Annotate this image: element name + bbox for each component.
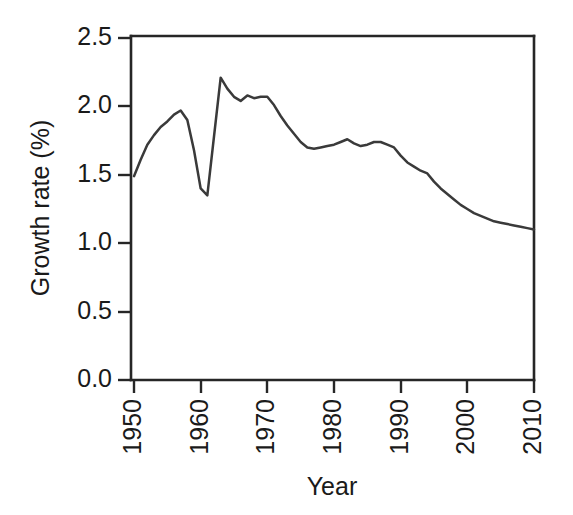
y-axis-tick-labels: 2.5 2.0 1.5 1.0 0.5 0.0 [77, 22, 112, 392]
chart-figure: 2.5 2.0 1.5 1.0 0.5 0.0 1950 1960 1970 1… [0, 0, 573, 515]
y-axis-title: Growth rate (%) [26, 120, 54, 296]
x-tick-label-1960: 1960 [185, 399, 213, 455]
x-axis-tick-labels: 1950 1960 1970 1980 1990 2000 2010 [118, 399, 546, 455]
x-tick-label-1980: 1980 [318, 399, 346, 455]
y-tick-label-0_5: 0.5 [77, 296, 112, 324]
x-tick-label-1990: 1990 [385, 399, 413, 455]
y-tick-label-0_0: 0.0 [77, 364, 112, 392]
x-tick-label-1950: 1950 [118, 399, 146, 455]
y-tick-label-1_5: 1.5 [77, 159, 112, 187]
y-tick-label-2_5: 2.5 [77, 22, 112, 50]
x-tick-label-2010: 2010 [518, 399, 546, 455]
y-tick-label-1_0: 1.0 [77, 227, 112, 255]
plot-area-background [131, 36, 534, 380]
growth-rate-line-chart: 2.5 2.0 1.5 1.0 0.5 0.0 1950 1960 1970 1… [0, 0, 573, 515]
x-axis-title: Year [307, 472, 358, 500]
y-tick-label-2_0: 2.0 [77, 90, 112, 118]
x-axis-ticks [134, 380, 534, 393]
x-tick-label-2000: 2000 [451, 399, 479, 455]
y-axis-ticks [118, 38, 131, 380]
x-tick-label-1970: 1970 [251, 399, 279, 455]
